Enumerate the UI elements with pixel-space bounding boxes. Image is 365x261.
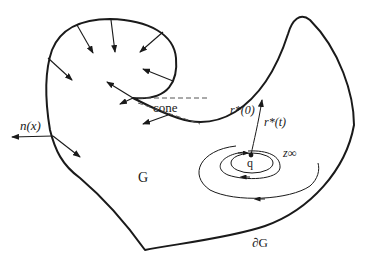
label-cone: cone (153, 100, 178, 115)
label-r0: r*(0) (230, 103, 255, 117)
normal-arrow (143, 115, 168, 124)
normal-arrow (111, 20, 115, 52)
diagram-canvas: cone r*(0) r*(t) n(x) G q z∞ ∂G (0, 0, 365, 261)
normal-arrow (140, 32, 163, 52)
inward-arrow (53, 136, 80, 157)
label-q: q (247, 156, 253, 170)
label-region-g: G (138, 170, 148, 185)
normal-arrow (48, 58, 72, 80)
normal-arrow (77, 25, 93, 53)
label-rt: r*(t) (264, 115, 286, 129)
label-z-infinity: z∞ (282, 146, 297, 160)
normal-arrow (120, 98, 133, 104)
normal-arrow (143, 69, 173, 81)
label-boundary: ∂G (252, 235, 268, 250)
normal-arrow (107, 82, 133, 98)
label-n-x: n(x) (20, 118, 41, 133)
outward-normal-arrow (12, 136, 53, 137)
